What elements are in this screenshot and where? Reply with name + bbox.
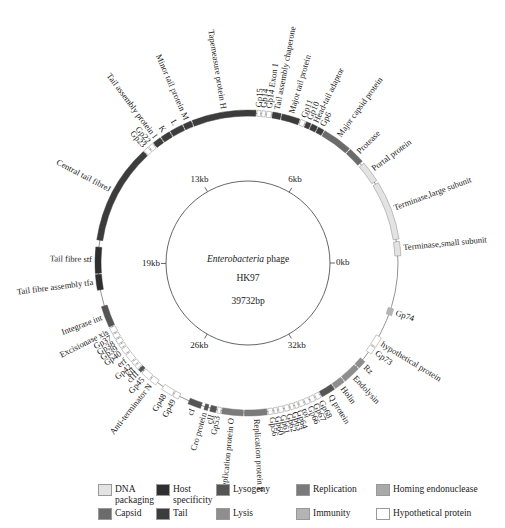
legend-label: DNApackaging bbox=[115, 484, 154, 506]
legend-label: Immunity bbox=[313, 508, 350, 519]
legend-label: Hostspecificity bbox=[173, 484, 213, 506]
gene-label-terminase-small-subunit: Terminase,small subunit bbox=[403, 234, 488, 252]
scale-tick-mark bbox=[205, 187, 207, 191]
genome-map: Terminase,small subunitTerminase,large s… bbox=[0, 0, 505, 528]
gene-label-tapemeasure-protein-h: Tapemeasure protein H bbox=[206, 29, 229, 110]
gene-segment-gp14 bbox=[262, 111, 266, 117]
legend-item-lysogeny: Lysogeny bbox=[216, 484, 270, 496]
scale-tick-mark bbox=[205, 334, 207, 338]
legend-item-hypothetical-protein: Hypothetical protein bbox=[376, 508, 471, 520]
gene-segment-gp73 bbox=[366, 345, 375, 354]
gene-segment-gp62 bbox=[284, 404, 290, 411]
gene-segment-gp14-exon-1 bbox=[266, 111, 272, 118]
legend-swatch bbox=[156, 484, 170, 496]
gene-segment-roi bbox=[298, 400, 305, 407]
gene-segment-gp63 bbox=[289, 403, 294, 410]
gene-segment-major-tail-protein bbox=[281, 114, 300, 125]
gene-segment-tail-assembly-chaperone bbox=[272, 112, 281, 119]
gene-label-l: L bbox=[169, 118, 180, 127]
gene-label-portal-protein: Portal protein bbox=[369, 136, 413, 173]
gene-segment-central-tail-fibrej bbox=[97, 151, 148, 240]
gene-label-protease: Protease bbox=[354, 128, 382, 156]
legend-label: Homing endonuclease bbox=[393, 484, 478, 495]
gene-segment-gp74 bbox=[386, 307, 394, 316]
gene-segment-gp56 bbox=[268, 408, 274, 415]
gene-segment-ci bbox=[188, 398, 202, 408]
legend-swatch bbox=[98, 484, 112, 496]
gene-segment-gp15 bbox=[257, 110, 261, 116]
gene-segment-gp49 bbox=[173, 391, 181, 399]
gene-segment-gp61 bbox=[278, 406, 284, 413]
gene-segment-minor-tail-protein-m bbox=[183, 121, 193, 130]
gene-segment-gp11 bbox=[299, 119, 306, 126]
legend-label: Tail bbox=[173, 508, 188, 519]
gene-label-major-capsid-protein: Major capsid protein bbox=[335, 74, 385, 138]
scale-tick-label: 13kb bbox=[191, 174, 210, 184]
scale-tick-mark bbox=[289, 334, 291, 338]
legend-item-dna-packaging: DNApackaging bbox=[98, 484, 154, 506]
legend-swatch bbox=[216, 508, 230, 520]
gene-segment-tail-assembly-protein-i bbox=[153, 138, 163, 148]
gene-segment-terminase-small-subunit bbox=[394, 241, 401, 256]
gene-label-ci: cI bbox=[185, 407, 197, 417]
legend-item-immunity: Immunity bbox=[296, 508, 350, 520]
gene-segment-cro-protein bbox=[204, 404, 209, 411]
gene-segment-k bbox=[161, 132, 172, 142]
gene-label-tail-fibre-assembly-tfa: Tail fibre assembly tfa bbox=[16, 277, 94, 297]
legend-item-capsid: Capsid bbox=[98, 508, 141, 520]
legend-item-replication: Replication bbox=[296, 484, 357, 496]
gene-label-gp74: Gp74 bbox=[394, 308, 416, 324]
legend-item-homing-endonuclease: Homing endonuclease bbox=[376, 484, 478, 496]
gene-label-gp15: Gp15 bbox=[253, 88, 264, 108]
legend-swatch bbox=[296, 508, 310, 520]
gene-segment-replication-protein-o bbox=[222, 408, 244, 416]
legend-swatch bbox=[376, 484, 390, 496]
legend-item-tail: Tail bbox=[156, 508, 188, 520]
gene-segment-gp48 bbox=[162, 384, 175, 395]
gene-segment-head-tail-adaptor bbox=[310, 124, 318, 132]
legend-swatch bbox=[156, 508, 170, 520]
center-strain: HK97 bbox=[236, 273, 259, 283]
legend-item-host-specificity: Hostspecificity bbox=[156, 484, 213, 506]
center-length: 39732bp bbox=[231, 296, 265, 306]
gene-label-replication-protein-o: Replication protein O bbox=[218, 418, 236, 493]
gene-segment-gp10 bbox=[304, 122, 311, 129]
gene-segment-tail-fibre-stf bbox=[95, 247, 102, 274]
gene-segment-tail-fibre-assembly-tfa bbox=[95, 274, 103, 290]
gene-segment-integrase-int bbox=[101, 305, 114, 327]
scale-tick-mark bbox=[289, 188, 292, 192]
legend-label: Hypothetical protein bbox=[393, 508, 471, 519]
gene-segment-excisionase-xis bbox=[110, 326, 118, 334]
gene-label-rz: Rz bbox=[362, 362, 376, 376]
gene-label-central-tail-fibrej: Central tail fibreJ bbox=[55, 157, 113, 194]
legend-swatch bbox=[98, 508, 112, 520]
gene-segment-tapemeasure-protein-h bbox=[192, 110, 256, 126]
gene-label-tail-assembly-protein-i: Tail assembly protein I bbox=[105, 71, 160, 140]
legend-label: Lysogeny bbox=[233, 484, 270, 495]
legend-label: Capsid bbox=[115, 508, 141, 519]
gene-segment-gp66 bbox=[304, 397, 311, 404]
gene-label-replication-protein-p: Replication protein P bbox=[252, 418, 266, 492]
scale-tick-label: 26kb bbox=[190, 340, 209, 350]
scale-tick-label: 32kb bbox=[288, 340, 307, 350]
gene-label-minor-tail-protein-m: Minor tail protein M bbox=[154, 53, 192, 122]
legend-swatch bbox=[376, 508, 390, 520]
scale-tick-label: 0kb bbox=[336, 257, 350, 267]
legend-item-lysis: Lysis bbox=[216, 508, 253, 520]
gene-label-terminase-large-subunit: Terminase,large subunit bbox=[392, 174, 473, 212]
legend-swatch bbox=[216, 484, 230, 496]
center-organism: Enterobacteria phage bbox=[206, 254, 289, 264]
gene-segment-cii bbox=[210, 405, 217, 412]
legend-swatch bbox=[296, 484, 310, 496]
legend-label: Lysis bbox=[233, 508, 253, 519]
gene-segment-l bbox=[170, 125, 184, 136]
gene-label-tail-fibre-stf: Tail fibre stf bbox=[50, 253, 93, 264]
scale-tick-label: 6kb bbox=[288, 174, 302, 184]
legend-label: Replication bbox=[313, 484, 357, 495]
gene-segment-gp53 bbox=[217, 407, 222, 414]
gene-segment-gp64 bbox=[294, 402, 299, 409]
gene-segment-replication-protein-p bbox=[244, 409, 267, 416]
scale-tick-label: 19kb bbox=[142, 258, 161, 268]
gene-segment-gp60 bbox=[273, 407, 278, 414]
